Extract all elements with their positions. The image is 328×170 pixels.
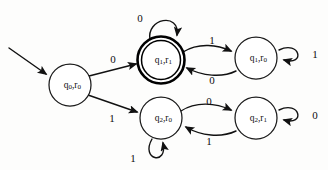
automaton-diagram: q1r1 ============ --> 0 q2r0 ===========… [0,0,328,170]
state-q0r0[interactable]: q0,r0 [42,64,97,106]
edge-q1r0-to-q1r1: 0 [187,68,236,86]
edge-label-q1r1-q1r0: 1 [209,34,215,46]
self-loop-q1r0: 1 [279,48,318,61]
edge-q0r0-to-q1r1: 0 [89,53,136,76]
automaton-canvas: q1r1 ============ --> 0 q2r0 ===========… [0,0,328,170]
state-q1r0[interactable]: q1,r0 [228,37,283,79]
edge-label-q2r1-q2r0: 1 [206,135,212,147]
state-q2r0[interactable]: q2,r0 [133,97,188,139]
edge-label-q1r0-q1r1: 0 [209,74,215,86]
edge-label-self-q2r1: 0 [312,109,318,121]
edge-label-q0r0-q2r0: 1 [109,112,115,124]
edge-label-self-q1r0: 1 [312,48,318,60]
state-q1r1[interactable]: q1,r1 [133,37,188,84]
self-loop-q2r1: 0 [279,108,318,121]
edge-label-self-q1r1: 0 [137,12,143,24]
edge-q2r0-to-q2r1: 0 [181,95,231,111]
self-loop-q2r0: 1 [130,139,163,164]
start-arrow [9,48,46,74]
edge-q0r0-to-q2r0: 1 [88,95,137,124]
edge-label-q0r0-q1r1: 0 [110,53,116,65]
edge-label-q2r0-q2r1: 0 [206,95,212,107]
state-q2r1[interactable]: q2,r1 [228,97,283,139]
edge-label-self-q2r0: 1 [130,152,136,164]
edge-q2r1-to-q2r0: 1 [186,127,236,147]
edge-q1r1-to-q1r0: 1 [183,34,231,52]
